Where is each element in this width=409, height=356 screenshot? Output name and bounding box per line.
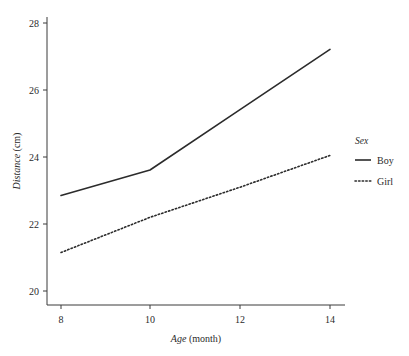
x-tick-label-14: 14 [325, 314, 335, 325]
y-axis-title: Distance (cm) [11, 133, 23, 191]
x-axis-title-variable: Age [170, 333, 187, 344]
x-axis-title-unit: (month) [186, 333, 221, 345]
legend: Sex Boy Girl [355, 136, 394, 187]
legend-title: Sex [355, 136, 369, 146]
y-tick-label-22: 22 [29, 219, 39, 230]
legend-entry-girl[interactable]: Girl [355, 176, 393, 187]
y-tick-label-20: 20 [29, 286, 39, 297]
chart-page: 28 26 24 22 20 8 10 12 14 Age (month) Di… [0, 0, 409, 356]
y-tick-label-26: 26 [29, 85, 39, 96]
y-axis-title-unit: (cm) [11, 133, 23, 154]
legend-label-boy: Boy [377, 155, 394, 166]
x-axis-title: Age (month) [170, 333, 221, 345]
series-line-girl [61, 155, 330, 252]
line-chart: 28 26 24 22 20 8 10 12 14 Age (month) Di… [0, 0, 409, 356]
y-tick-label-24: 24 [29, 152, 39, 163]
x-tick-label-8: 8 [59, 314, 64, 325]
y-tick-marks [43, 23, 47, 291]
y-axis-title-variable: Distance [11, 153, 22, 190]
legend-label-girl: Girl [377, 176, 393, 187]
x-tick-label-10: 10 [145, 314, 155, 325]
series-line-boy [61, 49, 330, 195]
y-tick-label-28: 28 [29, 18, 39, 29]
x-tick-label-12: 12 [235, 314, 245, 325]
legend-entry-boy[interactable]: Boy [355, 155, 394, 166]
x-tick-marks [61, 305, 330, 309]
